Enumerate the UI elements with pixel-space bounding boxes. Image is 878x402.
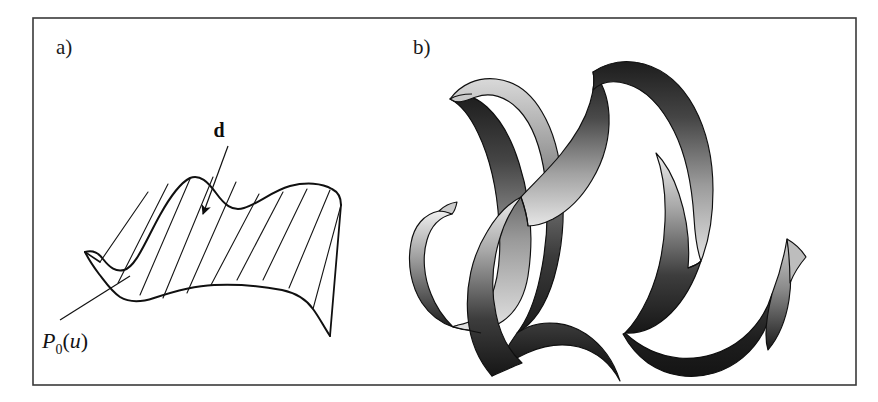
profile-curve-base: P (41, 328, 55, 353)
panel-label-b: b) (413, 35, 431, 59)
profile-curve-close-paren: ) (81, 328, 88, 353)
profile-curve-open-paren: ( (62, 328, 69, 353)
direction-vector-label: d (213, 119, 224, 141)
profile-curve-variable: u (70, 328, 81, 353)
figure-container: a) b) (0, 0, 878, 402)
profile-curve-subscript: 0 (55, 342, 62, 357)
figure-canvas: a) b) (0, 0, 878, 402)
panel-label-a: a) (56, 35, 72, 59)
profile-curve-label: P0(u) (41, 328, 88, 357)
